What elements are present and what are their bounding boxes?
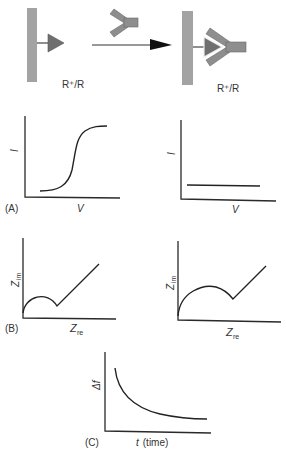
svg-text:re: re <box>77 329 83 336</box>
panel-label-a: (A) <box>5 203 18 214</box>
chart-a-right: I V <box>166 120 276 215</box>
svg-text:(time): (time) <box>140 437 168 448</box>
svg-text:im: im <box>15 272 22 280</box>
chart-b-right: Z im Z re <box>165 241 281 340</box>
x-label-V: V <box>232 204 240 215</box>
y-label-I: I <box>166 152 177 155</box>
redox-label-right: R⁺/R <box>217 83 239 94</box>
scheme-after: R⁺/R <box>182 11 246 94</box>
svg-text:Z: Z <box>165 283 176 291</box>
reaction-arrow-icon <box>92 39 172 50</box>
redox-label-left: R⁺/R <box>62 79 84 90</box>
biosensor-diagram: R⁺/R R⁺/R I V (A) I V <box>0 0 286 456</box>
y-label-I: I <box>9 149 20 152</box>
y-label-zim: Z im <box>165 275 177 291</box>
svg-text:im: im <box>170 275 177 283</box>
panel-label-c: (C) <box>85 437 99 448</box>
antibody-free-icon <box>110 9 138 37</box>
y-label-zim: Z im <box>10 272 22 288</box>
chart-c: Δf t (time) (C) <box>85 352 211 448</box>
chart-a-left: I V (A) <box>5 116 120 214</box>
x-label-zre: Z re <box>69 322 83 336</box>
x-label-V: V <box>77 203 85 214</box>
x-label-zre: Z re <box>225 326 239 340</box>
scheme-before: R⁺/R <box>27 8 84 90</box>
x-label-time: t (time) <box>136 437 168 448</box>
svg-text:Z: Z <box>10 280 21 288</box>
antigen-triangle-icon <box>48 34 64 52</box>
electrode-left <box>27 8 37 82</box>
svg-text:re: re <box>233 333 239 340</box>
y-label-delta-f: Δf <box>91 379 102 391</box>
chart-b-left: Z im Z re (B) <box>5 238 116 336</box>
electrode-right <box>182 11 193 85</box>
panel-label-b: (B) <box>5 323 18 334</box>
